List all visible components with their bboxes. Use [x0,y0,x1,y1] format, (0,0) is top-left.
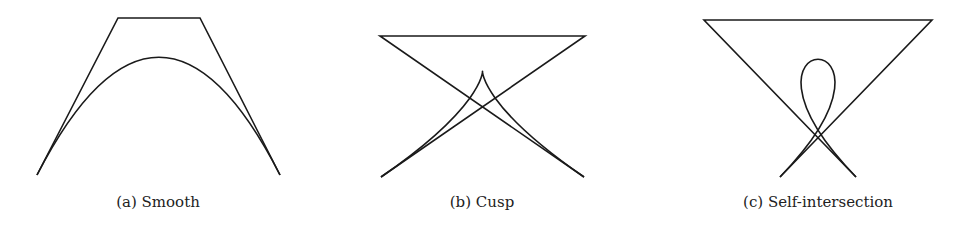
control-polygon-smooth [37,18,280,175]
panel-smooth [37,18,280,175]
panel-self-intersection [704,20,932,177]
bezier-curve-smooth [37,57,280,175]
caption-smooth: (a) Smooth [116,193,200,211]
caption-cusp: (b) Cusp [450,193,515,211]
caption-self-intersection: (c) Self-intersection [743,193,893,211]
bezier-curve-self-intersection [780,59,856,177]
bezier-curve-cusp [381,71,584,177]
control-polygon-self-intersection [704,20,932,177]
panel-cusp [380,36,585,177]
